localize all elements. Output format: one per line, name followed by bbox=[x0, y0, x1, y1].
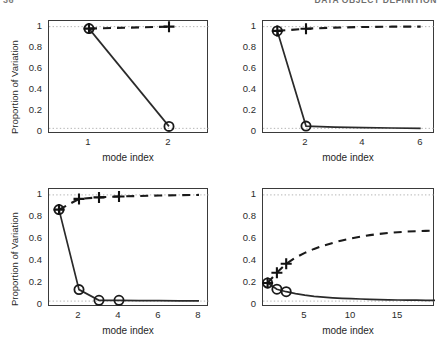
y-tick-label: 0.6 bbox=[228, 63, 256, 73]
y-tick-label: 1 bbox=[22, 21, 42, 31]
y-tick-label: 0 bbox=[22, 126, 42, 136]
y-tick-label: 0.4 bbox=[14, 84, 42, 94]
y-tick-label: 0.4 bbox=[228, 255, 256, 265]
y-tick-label: 0.6 bbox=[228, 233, 256, 243]
running-head-title: DATA OBJECT DEFINITION bbox=[314, 0, 437, 5]
scree-plot-top-left: Proportion of Variation 1 0.8 0.6 0.4 0.… bbox=[0, 8, 220, 173]
proportion-of-variation-line bbox=[277, 31, 420, 128]
document-page: 36 DATA OBJECT DEFINITION Proportion of … bbox=[0, 0, 441, 346]
y-tick-label: 0 bbox=[236, 299, 256, 309]
x-tick-label: 4 bbox=[352, 137, 372, 147]
x-tick-label: 2 bbox=[295, 137, 315, 147]
plot-canvas bbox=[49, 189, 209, 307]
plot-canvas bbox=[263, 189, 435, 307]
plot-axes-frame bbox=[48, 20, 208, 133]
y-tick-label: 0.4 bbox=[228, 84, 256, 94]
y-tick-label: 0.2 bbox=[14, 105, 42, 115]
cumulative-proportion-line bbox=[268, 231, 435, 283]
y-tick-label: 0.2 bbox=[14, 277, 42, 287]
plot-canvas bbox=[49, 21, 209, 134]
y-tick-label: 0.8 bbox=[228, 42, 256, 52]
y-tick-label: 0.4 bbox=[14, 255, 42, 265]
data-marker-plus bbox=[164, 21, 175, 32]
plot-axes-frame bbox=[262, 20, 434, 133]
x-tick-label: 5 bbox=[294, 310, 314, 320]
y-tick-label: 0 bbox=[236, 126, 256, 136]
scree-plot-bottom-right: 1 0.8 0.6 0.4 0.2 0 bbox=[221, 176, 441, 346]
figure-panel-grid: Proportion of Variation 1 0.8 0.6 0.4 0.… bbox=[0, 8, 441, 346]
y-tick-label: 0.6 bbox=[14, 63, 42, 73]
y-tick-label: 0.6 bbox=[14, 233, 42, 243]
x-tick-label: 2 bbox=[158, 137, 178, 147]
proportion-of-variation-line bbox=[59, 210, 199, 301]
scree-plot-top-right: 1 0.8 0.6 0.4 0.2 0 bbox=[221, 8, 441, 173]
y-tick-label: 0.2 bbox=[228, 277, 256, 287]
plot-canvas bbox=[263, 21, 435, 134]
data-marker-plus bbox=[94, 192, 105, 203]
cumulative-proportion-line bbox=[277, 27, 420, 31]
y-tick-label: 0.8 bbox=[14, 42, 42, 52]
x-tick-label: 15 bbox=[387, 310, 407, 320]
y-tick-label: 1 bbox=[236, 189, 256, 199]
data-marker-plus bbox=[114, 191, 125, 202]
x-tick-label: 6 bbox=[148, 310, 168, 320]
data-marker-plus bbox=[301, 23, 312, 34]
y-tick-label: 1 bbox=[236, 21, 256, 31]
x-tick-label: 10 bbox=[340, 310, 360, 320]
x-axis-label: mode index bbox=[278, 153, 418, 163]
y-tick-label: 0.8 bbox=[228, 211, 256, 221]
y-tick-label: 1 bbox=[22, 189, 42, 199]
y-tick-label: 0 bbox=[22, 299, 42, 309]
y-tick-label: 0.2 bbox=[228, 105, 256, 115]
x-tick-label: 1 bbox=[78, 137, 98, 147]
x-tick-label: 4 bbox=[108, 310, 128, 320]
page-folio-number: 36 bbox=[3, 0, 14, 5]
x-tick-label: 6 bbox=[410, 137, 430, 147]
x-axis-label: mode index bbox=[58, 153, 198, 163]
proportion-of-variation-line bbox=[268, 283, 435, 300]
x-tick-label: 8 bbox=[188, 310, 208, 320]
x-tick-label: 2 bbox=[68, 310, 88, 320]
plot-axes-frame bbox=[262, 188, 434, 306]
x-axis-label: mode index bbox=[58, 326, 198, 336]
scree-plot-bottom-left: Proportion of Variation 1 0.8 0.6 0.4 0.… bbox=[0, 176, 220, 346]
y-tick-label: 0.8 bbox=[14, 211, 42, 221]
x-axis-label: mode index bbox=[278, 326, 418, 336]
plot-axes-frame bbox=[48, 188, 208, 306]
proportion-of-variation-line bbox=[89, 29, 169, 127]
